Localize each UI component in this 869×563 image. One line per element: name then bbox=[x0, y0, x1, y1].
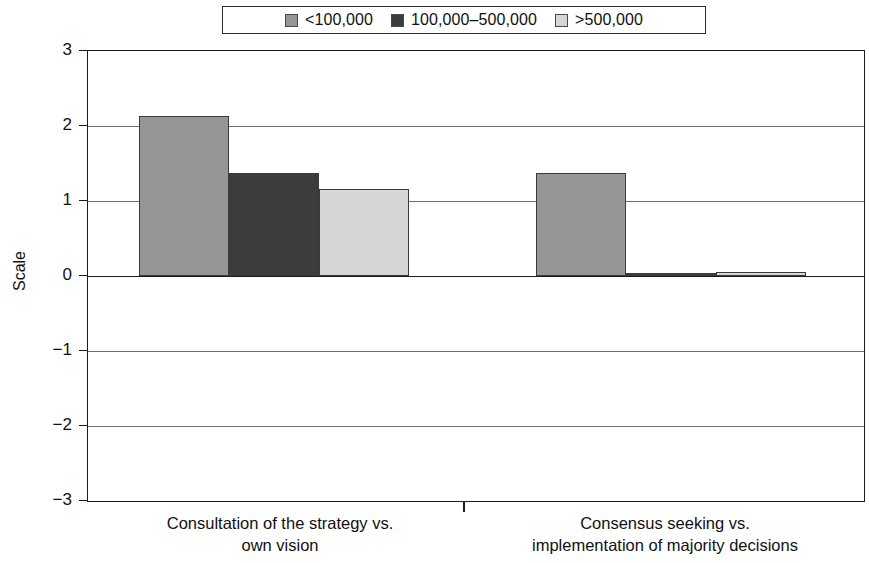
gridline-0 bbox=[88, 276, 864, 277]
bar-g1-s1 bbox=[626, 273, 716, 276]
legend-entry-2: >500,000 bbox=[555, 12, 643, 28]
y-tick-label-−1: −1 bbox=[14, 341, 72, 358]
y-tick-label-3: 3 bbox=[14, 41, 72, 58]
bar-g0-s1 bbox=[229, 173, 319, 277]
legend-swatch-icon-2 bbox=[555, 14, 568, 27]
y-tick-label-−2: −2 bbox=[14, 416, 72, 433]
y-tick-3 bbox=[79, 50, 87, 51]
y-tick-−3 bbox=[79, 500, 87, 501]
y-tick-label-2: 2 bbox=[14, 116, 72, 133]
bar-g1-s0 bbox=[536, 173, 626, 277]
bar-g0-s2 bbox=[319, 189, 409, 276]
y-tick-label-0: 0 bbox=[14, 266, 72, 283]
y-tick-−1 bbox=[79, 350, 87, 351]
y-tick-−2 bbox=[79, 425, 87, 426]
legend-swatch-icon-0 bbox=[285, 14, 298, 27]
y-tick-2 bbox=[79, 125, 87, 126]
x-axis-category-label-line: own vision bbox=[95, 534, 465, 556]
legend-label-1: 100,000–500,000 bbox=[411, 12, 537, 28]
x-axis-category-label-1: Consensus seeking vs.implementation of m… bbox=[465, 512, 865, 556]
plot-area bbox=[87, 50, 865, 502]
legend-label-0: <100,000 bbox=[305, 12, 373, 28]
bar-chart: <100,000 100,000–500,000 >500,000 Scale … bbox=[0, 0, 869, 563]
legend-entry-0: <100,000 bbox=[285, 12, 373, 28]
y-tick-0 bbox=[79, 275, 87, 276]
legend-label-2: >500,000 bbox=[575, 12, 643, 28]
y-tick-label-−3: −3 bbox=[14, 491, 72, 508]
gridline-−1 bbox=[88, 351, 864, 352]
x-axis-category-label-0: Consultation of the strategy vs.own visi… bbox=[95, 512, 465, 556]
x-axis-category-label-line: Consensus seeking vs. bbox=[465, 512, 865, 534]
y-tick-1 bbox=[79, 200, 87, 201]
bar-g1-s2 bbox=[716, 272, 806, 277]
gridline-−2 bbox=[88, 426, 864, 427]
y-tick-label-1: 1 bbox=[14, 191, 72, 208]
x-axis-category-label-line: Consultation of the strategy vs. bbox=[95, 512, 465, 534]
legend-swatch-icon-1 bbox=[391, 14, 404, 27]
legend-entry-1: 100,000–500,000 bbox=[391, 12, 537, 28]
bar-g0-s0 bbox=[139, 116, 229, 276]
category-divider-0 bbox=[463, 501, 465, 512]
x-axis-category-label-line: implementation of majority decisions bbox=[465, 534, 865, 556]
chart-legend: <100,000 100,000–500,000 >500,000 bbox=[222, 6, 706, 34]
